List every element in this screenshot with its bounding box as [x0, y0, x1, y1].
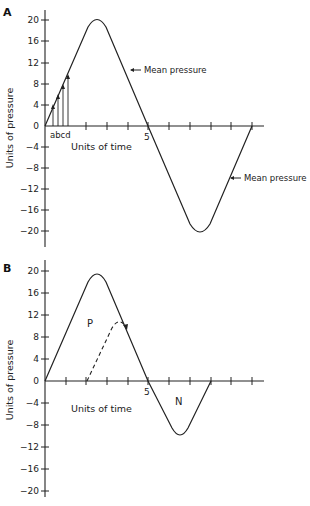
panel-b: B 20 16 12 8 4 0 −4 −8 −12 −	[3, 260, 264, 497]
arrow-left-icon	[130, 68, 134, 72]
y-tick-label: −12	[20, 442, 39, 452]
panel-a-y-tick-labels: 20 16 12 8 4 0 −4 −8 −12 −16 −20	[20, 15, 39, 236]
panel-b-dashed-curve	[87, 322, 126, 381]
y-tick-label: 4	[33, 100, 39, 110]
panel-b-label: B	[3, 262, 11, 275]
y-tick-label: 8	[33, 332, 39, 342]
panel-a-label: A	[3, 6, 12, 19]
y-tick-label: 20	[28, 15, 40, 25]
region-label-n: N	[175, 396, 182, 407]
y-tick-label: 12	[28, 310, 39, 320]
y-tick-label: −20	[20, 226, 39, 236]
y-tick-label: 0	[33, 121, 39, 131]
y-tick-label: 12	[28, 58, 39, 68]
panel-a: A 20 16 12 8 4 0 −4 −8 −12 −	[3, 6, 307, 247]
panel-a-annotation-2: Mean pressure	[244, 173, 307, 183]
y-tick-label: −20	[20, 486, 39, 496]
y-tick-label: 16	[28, 288, 40, 298]
y-tick-label: −12	[20, 184, 39, 194]
panel-b-x-axis-title: Units of time	[71, 403, 132, 414]
y-tick-label: 16	[28, 36, 40, 46]
panel-a-y-axis-title: Units of pressure	[4, 88, 15, 169]
panel-b-y-axis-title: Units of pressure	[4, 340, 15, 421]
panel-b-y-tick-labels: 20 16 12 8 4 0 −4 −8 −12 −16 −20	[20, 266, 39, 496]
y-tick-label: −16	[20, 464, 39, 474]
panel-a-annotation-1: Mean pressure	[144, 65, 207, 75]
y-tick-label: 0	[33, 376, 39, 386]
x-tick-label-5: 5	[144, 387, 150, 397]
y-tick-label: −8	[26, 163, 40, 173]
figure: A 20 16 12 8 4 0 −4 −8 −12 −	[0, 0, 310, 506]
panel-a-x-axis-title: Units of time	[71, 141, 132, 152]
y-tick-label: 4	[33, 354, 39, 364]
y-tick-label: −4	[26, 398, 40, 408]
x-tick-label-5: 5	[144, 132, 150, 142]
y-tick-label: −16	[20, 205, 39, 215]
y-tick-label: 8	[33, 79, 39, 89]
y-tick-label: 20	[28, 266, 40, 276]
y-tick-label: −4	[26, 142, 40, 152]
y-tick-label: −8	[26, 420, 40, 430]
region-label-p: P	[87, 318, 93, 329]
panel-a-subdivision-labels: abcd	[50, 130, 71, 140]
